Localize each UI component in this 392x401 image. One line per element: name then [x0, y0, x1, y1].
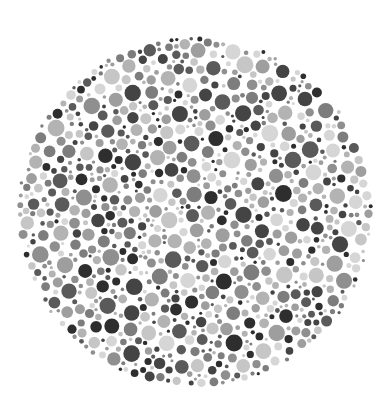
plate-dot: [275, 260, 280, 265]
plate-dot: [192, 287, 197, 292]
plate-dot: [302, 282, 307, 287]
plate-dot: [279, 245, 290, 256]
plate-dot: [154, 70, 159, 75]
plate-dot: [232, 69, 238, 75]
plate-dot: [95, 314, 101, 320]
plate-dot: [221, 55, 224, 58]
plate-dot: [168, 353, 173, 358]
plate-dot: [38, 230, 49, 241]
plate-dot: [306, 165, 322, 181]
plate-dot: [266, 110, 270, 114]
plate-dot: [124, 184, 129, 189]
plate-dot: [272, 282, 279, 289]
plate-dot: [207, 173, 216, 182]
plate-dot: [219, 170, 226, 177]
plate-dot: [256, 333, 264, 341]
plate-dot: [203, 182, 210, 189]
plate-dot: [246, 137, 253, 144]
plate-dot: [141, 326, 156, 341]
plate-dot: [91, 69, 97, 75]
plate-dot: [129, 206, 140, 217]
plate-dot: [162, 355, 165, 358]
plate-dot: [325, 123, 330, 128]
plate-dot: [73, 229, 81, 237]
plate-dot: [147, 259, 156, 268]
plate-dot: [120, 106, 129, 115]
plate-dot: [159, 180, 163, 184]
plate-dot: [286, 285, 290, 289]
plate-dot: [211, 279, 214, 282]
plate-dot: [126, 135, 130, 139]
plate-dot: [90, 303, 95, 308]
plate-dot: [86, 278, 94, 286]
plate-dot: [31, 144, 40, 153]
plate-dot: [123, 196, 132, 205]
plate-dot: [176, 82, 180, 86]
plate-dot: [136, 150, 139, 153]
plate-dot: [259, 318, 269, 328]
plate-dot: [227, 77, 240, 90]
plate-dot: [73, 258, 77, 262]
plate-dot: [214, 305, 222, 313]
plate-dot: [271, 357, 280, 366]
plate-dot: [131, 124, 143, 136]
plate-dot: [250, 295, 255, 300]
plate-dot: [253, 133, 258, 138]
plate-dot: [329, 236, 333, 240]
plate-dot: [211, 81, 218, 88]
plate-dot: [261, 125, 278, 142]
plate-dot: [238, 75, 242, 79]
plate-dot: [49, 310, 52, 313]
plate-dot: [54, 219, 58, 223]
plate-dot: [218, 352, 225, 359]
plate-dot: [61, 306, 73, 318]
plate-dot: [361, 250, 365, 254]
plate-dot: [224, 152, 241, 169]
plate-dot: [228, 354, 237, 363]
plate-dot: [337, 121, 345, 129]
plate-dot: [116, 347, 121, 352]
plate-dot: [165, 163, 179, 177]
plate-dot: [151, 355, 155, 359]
plate-dot: [339, 211, 347, 219]
plate-dot: [261, 260, 266, 265]
plate-dot: [308, 311, 315, 318]
plate-dot: [291, 326, 300, 335]
plate-dot: [170, 38, 174, 42]
plate-dot: [138, 222, 146, 230]
plate-dot: [187, 371, 193, 377]
plate-dot: [226, 125, 234, 133]
plate-dot: [80, 147, 94, 161]
plate-dot: [131, 369, 139, 377]
plate-dot: [189, 381, 194, 386]
plate-dot: [330, 188, 346, 204]
plate-dot: [274, 62, 277, 65]
plate-dot: [240, 247, 245, 252]
plate-dot: [266, 101, 273, 108]
plate-dot: [181, 289, 188, 296]
dot-plate: [0, 0, 392, 401]
plate-dot: [300, 308, 304, 312]
plate-dot: [272, 159, 277, 164]
plate-dot: [167, 299, 171, 303]
plate-dot: [202, 158, 205, 161]
plate-dot: [103, 95, 107, 99]
plate-dot: [50, 266, 53, 269]
plate-dot: [24, 252, 30, 258]
plate-dot: [176, 207, 179, 210]
plate-dot: [173, 377, 181, 385]
plate-dot: [149, 205, 162, 218]
plate-dot: [236, 171, 239, 174]
plate-dot: [200, 219, 204, 223]
plate-dot: [241, 262, 246, 267]
plate-dot: [287, 101, 290, 104]
plate-dot: [262, 116, 265, 119]
plate-dot: [85, 133, 93, 141]
plate-dot: [310, 257, 319, 266]
plate-dot: [270, 143, 275, 148]
plate-dot: [344, 252, 349, 257]
plate-dot: [172, 60, 175, 63]
plate-dot: [43, 297, 47, 301]
plate-dot: [253, 261, 256, 264]
plate-dot: [237, 276, 243, 282]
